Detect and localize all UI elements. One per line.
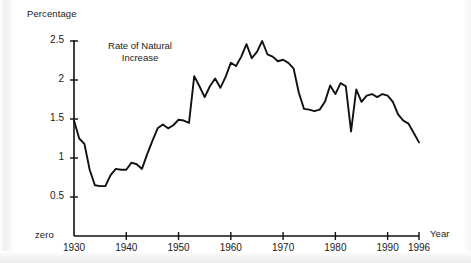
y-tick-label: 0.5: [36, 190, 64, 201]
x-tick-label: 1996: [399, 242, 439, 253]
data-series-line: [74, 41, 419, 186]
y-tick-label: 1.5: [36, 112, 64, 123]
y-tick-label: 1: [36, 151, 64, 162]
y-tick-label: 2.5: [36, 34, 64, 45]
chart-page: Percentage Year zero Rate of Natural Inc…: [0, 0, 471, 263]
y-tick-label: 2: [36, 73, 64, 84]
x-tick-label: 1960: [211, 242, 251, 253]
chart-plot-area: [0, 0, 471, 263]
x-tick-label: 1940: [106, 242, 146, 253]
x-tick-label: 1970: [263, 242, 303, 253]
x-tick-label: 1950: [159, 242, 199, 253]
axes-group: [74, 40, 419, 236]
x-tick-label: 1930: [54, 242, 94, 253]
x-tick-label: 1980: [315, 242, 355, 253]
